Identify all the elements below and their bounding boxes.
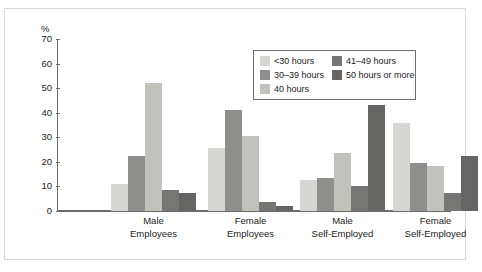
x-axis-group-label-line: Female <box>363 214 482 227</box>
legend-columns: <30 hours30–39 hours40 hours41–49 hours5… <box>260 55 410 95</box>
bar <box>162 190 179 211</box>
y-tick-label: 40 <box>41 106 52 119</box>
bar <box>242 136 259 211</box>
chart-legend: <30 hours30–39 hours40 hours41–49 hours5… <box>253 50 416 100</box>
legend-label: 41–49 hours <box>346 56 396 66</box>
bar <box>208 148 225 211</box>
bar <box>276 206 293 211</box>
bar-group <box>111 39 196 211</box>
legend-entry: 41–49 hours <box>332 55 415 67</box>
legend-label: 50 hours or more <box>346 70 415 80</box>
bar <box>410 163 427 211</box>
legend-swatch-icon <box>260 70 270 80</box>
bar <box>427 166 444 211</box>
x-axis-group-label-line: Self-Employed <box>363 227 482 240</box>
y-tick-label: 50 <box>41 81 52 94</box>
legend-swatch-icon <box>332 56 342 66</box>
legend-swatch-icon <box>260 56 270 66</box>
legend-column: <30 hours30–39 hours40 hours <box>260 55 324 95</box>
y-tick-mark <box>56 211 60 212</box>
y-tick-label: 30 <box>41 130 52 143</box>
bar <box>368 105 385 211</box>
bar <box>444 193 461 211</box>
x-axis-labels: MaleEmployeesFemaleEmployeesMaleSelf-Emp… <box>57 214 451 248</box>
bar <box>317 178 334 211</box>
bar <box>351 186 368 211</box>
legend-label: <30 hours <box>274 56 314 66</box>
y-tick-label: 10 <box>41 179 52 192</box>
legend-label: 30–39 hours <box>274 70 324 80</box>
x-axis-group-label: FemaleSelf-Employed <box>363 214 482 240</box>
legend-label: 40 hours <box>274 84 309 94</box>
bar <box>334 153 351 211</box>
legend-column: 41–49 hours50 hours or more <box>332 55 415 95</box>
y-tick-label: 60 <box>41 57 52 70</box>
bar <box>300 180 317 211</box>
legend-swatch-icon <box>332 70 342 80</box>
bar <box>225 110 242 211</box>
legend-entry: <30 hours <box>260 55 324 67</box>
legend-swatch-icon <box>260 84 270 94</box>
bar <box>393 123 410 211</box>
y-tick-label: 0 <box>47 204 52 217</box>
legend-entry: 50 hours or more <box>332 69 415 81</box>
bar <box>179 193 196 211</box>
legend-entry: 30–39 hours <box>260 69 324 81</box>
bar <box>145 83 162 211</box>
bar <box>111 184 128 211</box>
chart-figure: % 010203040506070 MaleEmployeesFemaleEmp… <box>4 8 466 260</box>
bar <box>128 156 145 211</box>
bar <box>461 156 478 211</box>
y-tick-label: 20 <box>41 155 52 168</box>
bar <box>259 202 276 211</box>
legend-entry: 40 hours <box>260 83 324 95</box>
y-tick-label: 70 <box>41 32 52 45</box>
